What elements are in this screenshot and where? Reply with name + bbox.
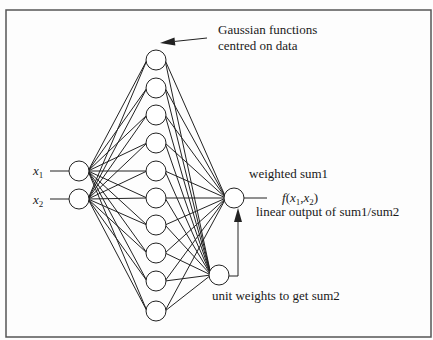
hidden-sum2-edge <box>165 115 211 275</box>
rbf-network-diagram: Gaussian functions centred on data x1 x2… <box>0 0 433 340</box>
unit-weights-label: unit weights to get sum2 <box>212 288 340 303</box>
hidden-output-edge <box>165 198 226 253</box>
gaussian-node-4 <box>146 133 166 153</box>
gaussian-node-6 <box>146 188 166 208</box>
gaussian-node-10 <box>146 301 166 321</box>
sum2-node <box>209 265 229 285</box>
hidden-output-edge <box>165 60 226 198</box>
hidden-sum2-edge <box>165 171 211 275</box>
gaussian-node-3 <box>146 105 166 125</box>
hidden-output-edge <box>165 88 226 198</box>
input-hidden-edge <box>88 60 147 199</box>
fn-close-paren: ) <box>314 190 318 205</box>
feedback-arrowhead-icon <box>234 208 242 222</box>
input-x1-subscript: 1 <box>39 170 44 180</box>
gaussian-arrowhead-icon <box>160 37 175 45</box>
linear-output-label: linear output of sum1/sum2 <box>256 204 399 219</box>
gaussian-node-1 <box>146 50 166 70</box>
input-node-x2 <box>69 189 89 209</box>
input-hidden-edge <box>88 199 147 311</box>
hidden-output-edge <box>165 115 226 198</box>
input-hidden-edge <box>88 199 147 253</box>
input-x2-subscript: 2 <box>39 199 44 209</box>
input-node-x1 <box>69 161 89 181</box>
input-hidden-edge <box>88 198 147 199</box>
input-hidden-edge <box>88 88 147 199</box>
gaussian-label-line1: Gaussian functions <box>218 22 317 37</box>
input-label-x1: x1 <box>32 163 43 180</box>
feedback-arrow-line <box>229 220 238 276</box>
gaussian-node-5 <box>146 161 166 181</box>
gaussian-label-line2: centred on data <box>218 38 298 53</box>
gaussian-node-9 <box>146 271 166 291</box>
hidden-output-edge <box>165 171 226 198</box>
weighted-sum-label: weighted sum1 <box>249 166 328 181</box>
gaussian-arrow-line <box>175 38 207 41</box>
diagram-canvas: Gaussian functions centred on data x1 x2… <box>0 0 433 340</box>
input-hidden-edge <box>88 115 147 199</box>
gaussian-node-7 <box>146 215 166 235</box>
input-label-x2: x2 <box>32 192 43 209</box>
input-hidden-edge <box>88 60 147 171</box>
gaussian-node-2 <box>146 78 166 98</box>
gaussian-node-8 <box>146 243 166 263</box>
output-node-sum1 <box>224 188 244 208</box>
